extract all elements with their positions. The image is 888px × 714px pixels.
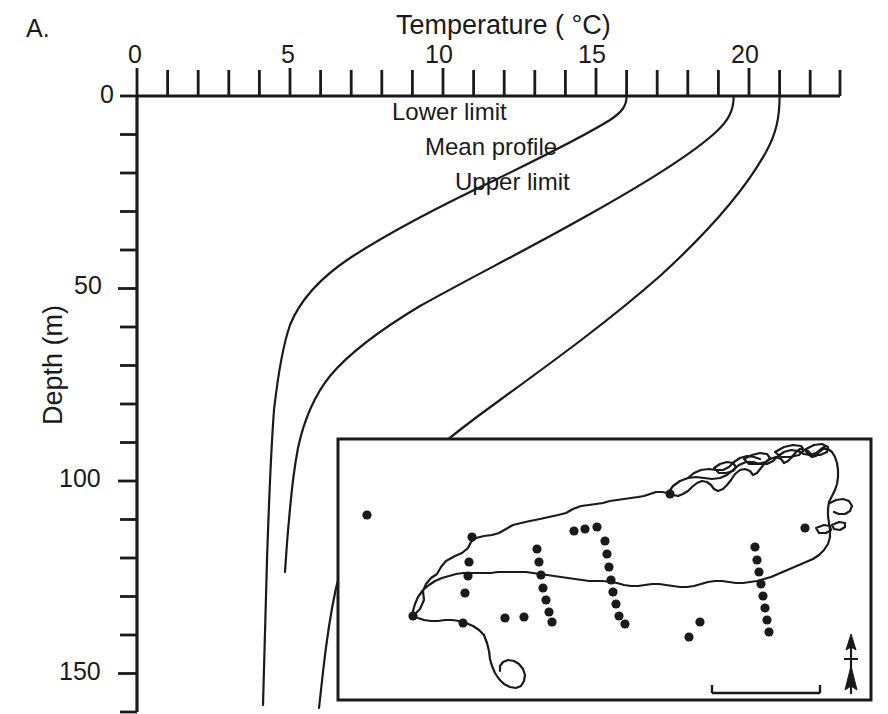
station-dot	[458, 618, 467, 627]
station-dot	[534, 557, 543, 566]
station-dot	[602, 549, 611, 558]
station-dot	[532, 544, 541, 553]
station-dot	[408, 611, 417, 620]
station-dot	[665, 489, 674, 498]
station-dot	[756, 579, 765, 588]
station-dot	[547, 617, 556, 626]
station-dot	[752, 555, 761, 564]
station-dot	[536, 570, 545, 579]
inset-legend-marker-icon	[362, 510, 371, 519]
station-dot	[614, 611, 623, 620]
station-dot	[541, 595, 550, 604]
station-dot	[467, 532, 476, 541]
station-dot	[800, 523, 809, 532]
station-dot	[580, 524, 589, 533]
station-dot	[544, 607, 553, 616]
station-dot	[606, 575, 615, 584]
y-axis-ticks	[118, 96, 137, 712]
station-dot	[500, 613, 509, 622]
station-dot	[760, 603, 769, 612]
station-dot	[754, 567, 763, 576]
station-dot	[569, 526, 578, 535]
x-axis-ticks	[137, 68, 840, 96]
station-dot	[460, 588, 469, 597]
station-dot	[604, 562, 613, 571]
station-dot	[463, 571, 472, 580]
figure-root: A. Temperature ( °C) 0 5 10 15 20 0 50 1…	[0, 0, 888, 714]
station-dot	[620, 619, 629, 628]
station-dot	[538, 583, 547, 592]
station-dot	[519, 612, 528, 621]
station-dot	[684, 632, 693, 641]
figure-vector-layer	[0, 0, 888, 714]
station-dot	[592, 522, 601, 531]
station-dot	[608, 587, 617, 596]
station-dot	[464, 557, 473, 566]
station-dot	[611, 599, 620, 608]
station-dot	[750, 542, 759, 551]
station-dot	[600, 536, 609, 545]
station-dot	[762, 615, 771, 624]
station-dot	[764, 627, 773, 636]
station-dot	[695, 617, 704, 626]
station-dot	[758, 591, 767, 600]
